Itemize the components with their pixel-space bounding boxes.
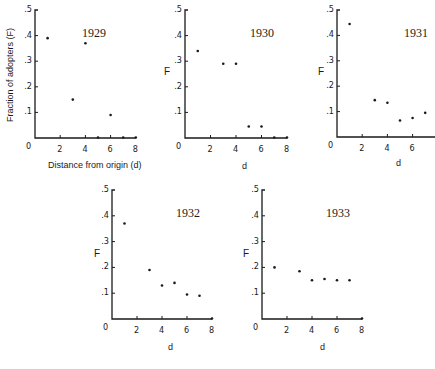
axes [262,190,362,319]
data-point [323,278,326,281]
data-point [311,279,314,282]
y-tick-label: .3 [245,237,259,246]
y-tick-label: .4 [245,211,259,220]
x-tick-label: 8 [359,326,364,335]
panel-1933: 1933 d F .1.2.3.4.502468 [0,0,375,369]
data-point [361,317,364,320]
data-point [348,279,351,282]
x-tick-label: 4 [309,326,314,335]
x-tick-label: 0 [253,323,258,332]
y-tick-label: .5 [245,185,259,194]
data-point [336,279,339,282]
data-point [298,270,301,273]
x-tick-label: 2 [284,326,289,335]
plot-area [0,0,435,369]
data-point [273,266,276,269]
x-tick-label: 6 [334,326,339,335]
y-tick-label: .2 [245,262,259,271]
y-tick-label: .1 [245,288,259,297]
